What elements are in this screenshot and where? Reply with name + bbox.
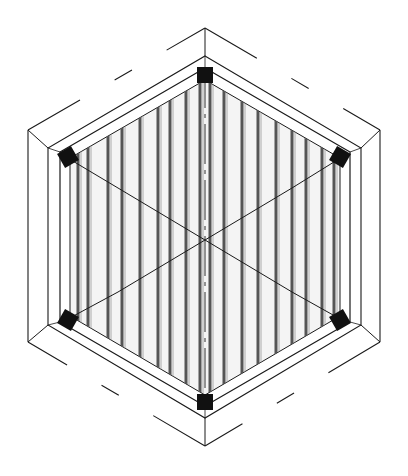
slat — [139, 60, 142, 420]
corner-block-top — [197, 67, 213, 83]
slat — [257, 60, 260, 420]
vertex-connector — [28, 325, 48, 342]
vertex-connector — [28, 130, 48, 148]
slat — [223, 60, 226, 420]
slat — [121, 60, 124, 420]
slat — [77, 60, 80, 420]
inner-connector — [350, 322, 361, 325]
vertex-connector — [361, 130, 380, 148]
inner-connector — [48, 148, 60, 152]
vertex-connector — [361, 325, 380, 342]
slat — [199, 60, 202, 420]
slat — [209, 60, 212, 420]
slat — [87, 60, 90, 420]
slat — [305, 60, 308, 420]
slat — [333, 60, 336, 420]
inner-connector — [350, 148, 361, 152]
hexagonal-frame-drawing — [0, 0, 408, 476]
slat — [157, 60, 160, 420]
corner-block-bottom — [197, 394, 213, 410]
slat — [185, 60, 188, 420]
slat — [321, 60, 324, 420]
slat — [241, 60, 244, 420]
slat — [169, 60, 172, 420]
